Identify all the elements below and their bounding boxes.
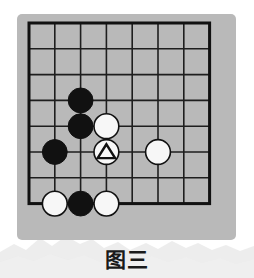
white-stone-disc: [94, 114, 119, 139]
black-stone-disc: [68, 88, 93, 113]
black-stone-c3-r4[interactable]: [68, 88, 93, 113]
white-stone-c4-r5[interactable]: [94, 114, 119, 139]
white-stone-c4-r8[interactable]: [94, 191, 119, 216]
black-stone-disc: [68, 191, 93, 216]
black-stone-c3-r8[interactable]: [68, 191, 93, 216]
black-stone-c3-r5[interactable]: [68, 114, 93, 139]
go-board[interactable]: [0, 0, 254, 278]
board-border: [29, 23, 210, 204]
white-stone-disc: [146, 140, 171, 165]
board-grid-lines: [29, 23, 210, 204]
white-stone-disc: [42, 191, 67, 216]
black-stone-disc: [68, 114, 93, 139]
black-stone-c2-r6[interactable]: [42, 140, 67, 165]
white-stone-disc: [94, 191, 119, 216]
white-stone-c6-r6[interactable]: [146, 140, 171, 165]
black-stone-disc: [42, 140, 67, 165]
figure-caption: 图三: [0, 243, 254, 273]
white-stone-c2-r8[interactable]: [42, 191, 67, 216]
white-stone-marked-c4-r6[interactable]: [94, 140, 119, 165]
